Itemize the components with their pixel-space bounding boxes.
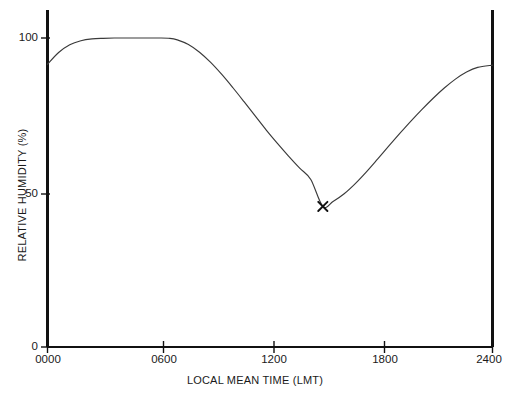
y-tick-label-0: 0 bbox=[0, 340, 38, 352]
minimum-marker-x-icon bbox=[318, 202, 327, 211]
chart-figure: 100 50 0 0000 0600 1200 1800 2400 LOCAL … bbox=[0, 0, 510, 399]
x-tick-label-2400: 2400 bbox=[459, 353, 510, 365]
x-axis-title: LOCAL MEAN TIME (LMT) bbox=[0, 374, 510, 386]
chart-plot-area bbox=[0, 0, 510, 399]
x-tick-label-1200: 1200 bbox=[244, 353, 304, 365]
x-tick-label-0600: 0600 bbox=[134, 353, 194, 365]
y-tick-label-100: 100 bbox=[0, 31, 38, 43]
humidity-curve bbox=[48, 38, 493, 208]
x-tick-label-0000: 0000 bbox=[18, 353, 78, 365]
x-tick-label-1800: 1800 bbox=[355, 353, 415, 365]
y-axis-title: RELATIVE HUMIDITY (%) bbox=[16, 95, 28, 295]
